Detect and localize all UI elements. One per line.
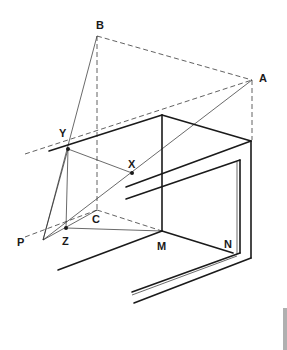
point-z-dot: [64, 226, 68, 230]
label-z: Z: [62, 235, 69, 247]
label-m: M: [157, 240, 166, 252]
label-c: C: [92, 213, 100, 225]
label-b: B: [96, 19, 104, 31]
label-n: N: [224, 238, 232, 250]
frame-structure: [49, 115, 251, 303]
label-y: Y: [59, 127, 67, 139]
scrollbar-thumb[interactable]: [283, 308, 287, 350]
label-p: P: [17, 236, 24, 248]
point-x-dot: [130, 171, 134, 175]
label-x: X: [128, 158, 136, 170]
perspective-diagram: B A Y X C Z P M N: [0, 0, 287, 350]
label-a: A: [259, 72, 267, 84]
point-y-dot: [66, 147, 70, 151]
